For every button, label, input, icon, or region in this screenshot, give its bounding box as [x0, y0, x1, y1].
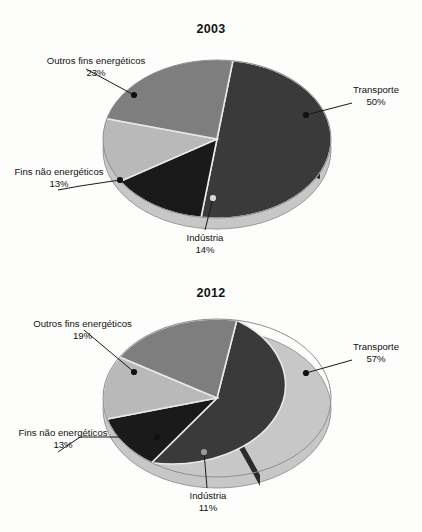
figure-page: 2003	[0, 0, 422, 532]
label-percent: 50%	[338, 96, 414, 108]
label-outros-fins-energeticos-2003: Outros fins energéticos 23%	[36, 55, 156, 80]
pie-chart-2012: 2012	[0, 266, 422, 532]
label-fins-nao-energeticos-2012: Fins não energéticos 13%	[8, 427, 118, 452]
label-name: Fins não energéticos	[18, 427, 107, 438]
label-name: Transporte	[353, 84, 399, 95]
label-percent: 14%	[165, 244, 245, 256]
label-percent: 13%	[8, 439, 118, 451]
label-fins-nao-energeticos-2003: Fins não energéticos 13%	[4, 166, 114, 191]
label-industria-2012: Indústria 11%	[168, 490, 248, 515]
label-name: Indústria	[190, 490, 227, 501]
label-percent: 11%	[168, 502, 248, 514]
label-transporte-2003: Transporte 50%	[338, 84, 414, 109]
label-percent: 19%	[20, 330, 145, 342]
label-name: Outros fins energéticos	[33, 318, 132, 329]
label-name: Outros fins energéticos	[47, 55, 146, 66]
pie-chart-2003: 2003	[0, 0, 422, 266]
label-industria-2003: Indústria 14%	[165, 232, 245, 257]
label-percent: 57%	[338, 353, 414, 365]
label-percent: 23%	[36, 67, 156, 79]
label-name: Transporte	[353, 341, 399, 352]
label-name: Indústria	[187, 232, 224, 243]
label-outros-fins-energeticos-2012: Outros fins energéticos 19%	[20, 318, 145, 343]
label-name: Fins não energéticos	[14, 166, 103, 177]
label-percent: 13%	[4, 178, 114, 190]
label-transporte-2012: Transporte 57%	[338, 341, 414, 366]
pie-graphic-2003	[0, 0, 422, 266]
